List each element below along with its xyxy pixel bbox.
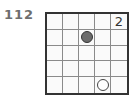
grid-cell-r0-c3[interactable] bbox=[95, 14, 111, 30]
grid-cell-r0-c4[interactable]: 2 bbox=[111, 14, 127, 30]
grid-cell-r0-c0[interactable] bbox=[47, 14, 63, 30]
black-circle-icon bbox=[81, 31, 93, 43]
puzzle-grid: 2 bbox=[45, 12, 129, 95]
grid-cell-r2-c3[interactable] bbox=[95, 46, 111, 62]
grid-cell-r3-c0[interactable] bbox=[47, 61, 63, 77]
grid-cell-r1-c0[interactable] bbox=[47, 30, 63, 46]
grid-cell-r4-c0[interactable] bbox=[47, 77, 63, 93]
grid-cell-r4-c4[interactable] bbox=[111, 77, 127, 93]
grid-cell-r1-c3[interactable] bbox=[95, 30, 111, 46]
grid-cell-r4-c1[interactable] bbox=[63, 77, 79, 93]
grid-cell-r4-c3[interactable] bbox=[95, 77, 111, 93]
grid-cell-r1-c1[interactable] bbox=[63, 30, 79, 46]
number-clue: 2 bbox=[115, 15, 123, 28]
grid-cell-r2-c1[interactable] bbox=[63, 46, 79, 62]
grid-cell-r2-c0[interactable] bbox=[47, 46, 63, 62]
grid-cell-r0-c1[interactable] bbox=[63, 14, 79, 30]
grid-cell-r3-c4[interactable] bbox=[111, 61, 127, 77]
grid-cell-r1-c4[interactable] bbox=[111, 30, 127, 46]
grid-cell-r2-c4[interactable] bbox=[111, 46, 127, 62]
grid-cell-r3-c2[interactable] bbox=[79, 61, 95, 77]
grid-cell-r3-c3[interactable] bbox=[95, 61, 111, 77]
grid-cell-r0-c2[interactable] bbox=[79, 14, 95, 30]
grid-cell-r3-c1[interactable] bbox=[63, 61, 79, 77]
grid-cell-r4-c2[interactable] bbox=[79, 77, 95, 93]
white-circle-icon bbox=[97, 79, 109, 91]
grid-cell-r2-c2[interactable] bbox=[79, 46, 95, 62]
puzzle-number: 112 bbox=[4, 7, 34, 22]
grid-cell-r1-c2[interactable] bbox=[79, 30, 95, 46]
